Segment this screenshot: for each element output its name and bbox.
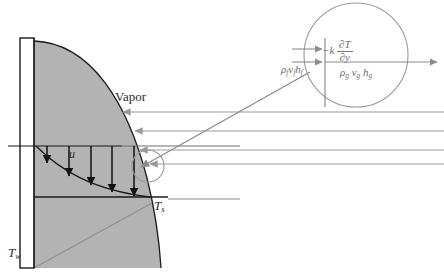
- vapor-enthalpy-flux-label: ρg vg hg: [340, 66, 372, 80]
- liquid-enthalpy-flux-label: ρfvfhf: [281, 63, 303, 77]
- conduction-prefix: −k: [322, 44, 334, 56]
- velocity-label: u: [69, 147, 75, 162]
- v-g-subscript: g: [357, 72, 361, 80]
- h-f-subscript: f: [301, 69, 303, 77]
- h-g-subscript: g: [368, 72, 372, 80]
- magnifier-leader-line: [141, 72, 310, 167]
- diagram-svg: [0, 0, 444, 280]
- surface-temperature-subscript: s: [161, 204, 164, 214]
- inset-circle: [292, 3, 437, 107]
- rho-g-subscript: g: [345, 72, 349, 80]
- surface-temperature-label: Ts: [154, 198, 165, 214]
- conduction-fraction: ∂T ∂y: [337, 39, 353, 64]
- wall-temperature-label: Tw: [8, 245, 21, 261]
- figure-canvas: Vapor u Ts Tw −k ∂T ∂y ρfvfhf ρg vg hg: [0, 0, 444, 280]
- conduction-term-label: −k ∂T ∂y: [322, 39, 353, 64]
- vapor-label: Vapor: [115, 89, 146, 105]
- condensate-film-region: [34, 41, 161, 268]
- conduction-denominator: ∂y: [337, 52, 353, 64]
- wall-temperature-subscript: w: [15, 251, 21, 261]
- wall: [20, 38, 34, 268]
- vapor-streamlines: [123, 112, 444, 164]
- conduction-numerator: ∂T: [337, 39, 353, 52]
